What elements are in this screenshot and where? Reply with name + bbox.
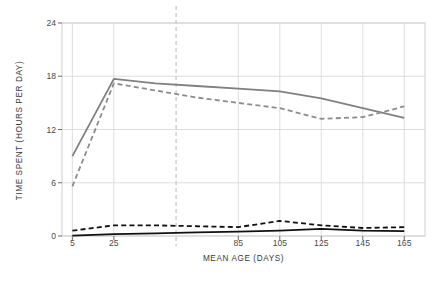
y-tick-label: 24	[30, 18, 56, 28]
x-tick-label: 105	[260, 238, 300, 248]
x-tick-label: 145	[343, 238, 383, 248]
y-tick-label: 18	[30, 71, 56, 81]
chart-figure: 06121824 52585105125145165 TIME SPENT (H…	[0, 0, 441, 281]
x-tick-label: 5	[52, 238, 92, 248]
x-tick-label: 85	[218, 238, 258, 248]
x-tick-label: 125	[301, 238, 341, 248]
x-axis-ticks: 52585105125145165	[0, 238, 441, 254]
y-tick-label: 12	[30, 125, 56, 135]
x-tick-label: 25	[94, 238, 134, 248]
y-axis-title: TIME SPENT (HOURS PER DAY)	[15, 26, 24, 236]
y-tick-label: 6	[30, 178, 56, 188]
x-axis-title: MEAN AGE (DAYS)	[62, 254, 425, 263]
x-tick-label: 165	[384, 238, 424, 248]
